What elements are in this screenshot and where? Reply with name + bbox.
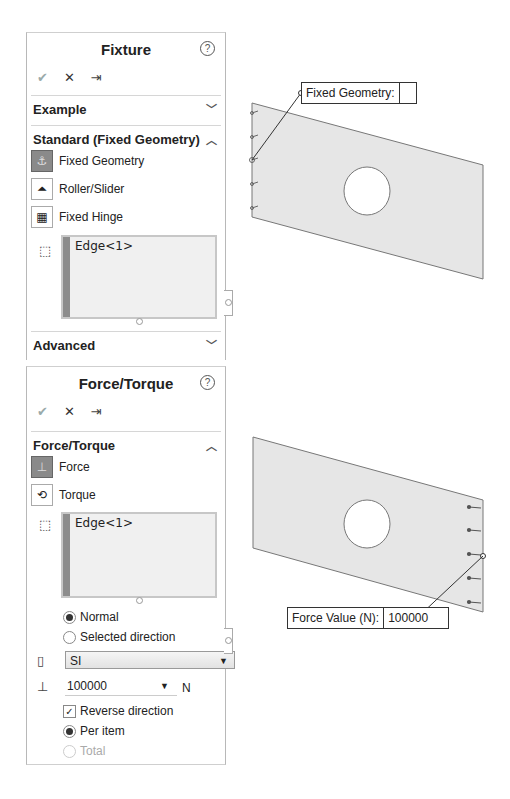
plate-model-force[interactable] [253,437,483,612]
callout-label: Fixed Geometry: [302,83,400,103]
graphics-viewport[interactable] [0,0,510,799]
callout-label: Force Value (N): [288,608,384,628]
fixed-geometry-callout[interactable]: Fixed Geometry: [301,82,417,104]
plate-model-fixture[interactable] [252,103,483,279]
force-value-callout[interactable]: Force Value (N): 100000 [287,607,449,629]
callout-value[interactable]: 100000 [384,608,448,628]
callout-value[interactable] [400,83,416,103]
